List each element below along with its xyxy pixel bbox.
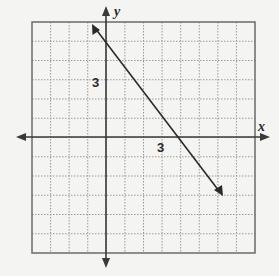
- x-axis-label: x: [257, 119, 265, 134]
- graph-svg: y x 3 3: [0, 0, 279, 276]
- y-tick-label: 3: [92, 75, 99, 90]
- y-axis-label: y: [112, 4, 121, 19]
- x-axis-left-arrow-icon: [16, 133, 26, 141]
- coordinate-plane: y x 3 3: [0, 0, 279, 276]
- x-axis-right-arrow-icon: [260, 133, 270, 141]
- x-tick-label: 3: [157, 140, 164, 155]
- plotted-line: [92, 24, 223, 196]
- y-axis-up-arrow-icon: [102, 6, 110, 16]
- y-axis-down-arrow-icon: [102, 258, 110, 268]
